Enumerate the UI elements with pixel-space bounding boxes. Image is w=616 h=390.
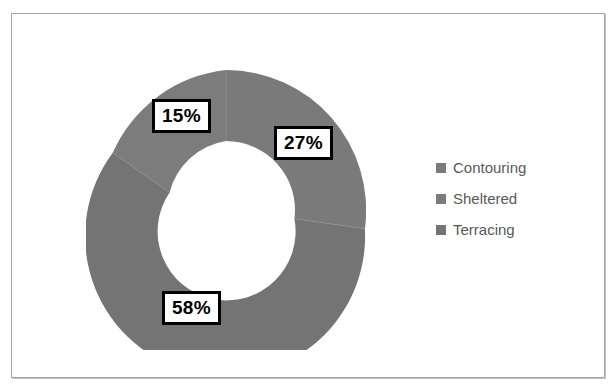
- legend-swatch-icon: [436, 225, 446, 235]
- chart-frame: 27% 15% 58% Contouring Sheltered Terraci…: [11, 13, 605, 378]
- data-label-terracing: 58%: [162, 291, 221, 325]
- legend-item-sheltered[interactable]: Sheltered: [436, 183, 586, 214]
- donut-svg: [86, 70, 366, 350]
- legend-swatch-icon: [436, 194, 446, 204]
- legend-label-terracing: Terracing: [453, 222, 515, 237]
- donut-chart: [86, 70, 366, 350]
- legend-label-contouring: Contouring: [453, 160, 526, 175]
- data-label-contouring: 27%: [274, 126, 333, 160]
- legend-swatch-icon: [436, 163, 446, 173]
- chart-legend: Contouring Sheltered Terracing: [436, 152, 586, 245]
- legend-label-sheltered: Sheltered: [453, 191, 517, 206]
- legend-item-terracing[interactable]: Terracing: [436, 214, 586, 245]
- legend-item-contouring[interactable]: Contouring: [436, 152, 586, 183]
- data-label-sheltered: 15%: [152, 99, 211, 133]
